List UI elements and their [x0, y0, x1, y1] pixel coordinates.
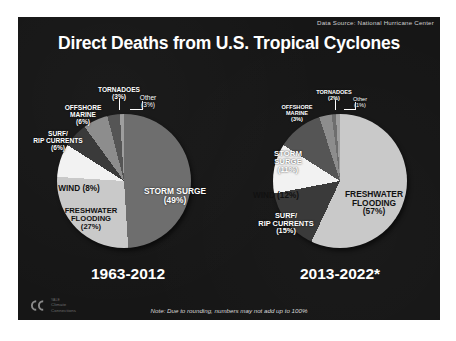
logo-yale-climate-connections: YALE Climate Connections: [28, 298, 76, 314]
label-wind-right-text: WIND (12%): [253, 191, 299, 200]
label-tornadoes-left-pct: (3%): [112, 93, 126, 100]
data-source-label: Data Source: National Hurricane Center: [317, 19, 434, 26]
label-offshore-marine-left: OFFSHORE MARINE (6%): [52, 105, 114, 125]
label-freshwater-flooding-left: FRESHWATER FLOODING (27%): [54, 207, 128, 230]
label-freshwater-left-pct: (27%): [81, 222, 101, 231]
label-surf-left-pct: (6%): [51, 144, 65, 151]
label-surf-rip-currents-left: SURF/ RIP CURRENTS (6%): [22, 131, 94, 151]
label-storm-surge-left-pct: (49%): [164, 195, 186, 205]
label-offshore-right-pct: (3%): [291, 116, 303, 122]
chart-2013-2022: FRESHWATER FLOODING (57%) SURF/ RIP CURR…: [240, 95, 430, 280]
label-storm-surge-right: STORM SURGE (11%): [258, 150, 318, 174]
label-storm-surge-right-pct: (11%): [278, 165, 298, 174]
label-tornadoes-right-pct: (2%): [328, 95, 340, 101]
label-other-left-pct: (3%): [141, 101, 155, 108]
label-surf-rip-currents-right: SURF/ RIP CURRENTS (15%): [248, 212, 324, 235]
page-title: Direct Deaths from U.S. Tropical Cyclone…: [18, 33, 440, 54]
chart-1963-2012: STORM SURGE (49%) FRESHWATER FLOODING (2…: [38, 95, 218, 280]
infographic-panel: Data Source: National Hurricane Center D…: [18, 17, 440, 320]
footnote: Note: Due to rounding, numbers may not a…: [18, 307, 440, 314]
label-offshore-marine-right: OFFSHORE MARINE (3%): [268, 105, 326, 122]
label-freshwater-flooding-right: FRESHWATER FLOODING (57%): [332, 190, 416, 216]
label-wind-left: WIND (8%): [44, 185, 114, 193]
logo-line-3: Connections: [51, 308, 76, 314]
label-storm-surge-left: STORM SURGE (49%): [134, 187, 216, 204]
period-label-left: 1963-2012: [38, 265, 218, 283]
logo-wordmark: YALE Climate Connections: [51, 298, 76, 314]
label-surf-right-pct: (15%): [276, 226, 296, 235]
label-other-left: Other (3%): [130, 95, 166, 109]
label-wind-right: WIND (12%): [238, 192, 314, 200]
label-wind-left-text: WIND (8%): [58, 184, 99, 193]
label-freshwater-right-pct: (57%): [363, 206, 385, 216]
label-other-right: Other (1%): [344, 97, 376, 109]
infographic-root: Data Source: National Hurricane Center D…: [0, 0, 456, 341]
label-other-right-pct: (1%): [354, 102, 366, 108]
logo-mark-icon: [28, 299, 48, 312]
label-offshore-left-pct: (6%): [76, 118, 90, 125]
period-label-right: 2013-2022*: [245, 265, 435, 283]
